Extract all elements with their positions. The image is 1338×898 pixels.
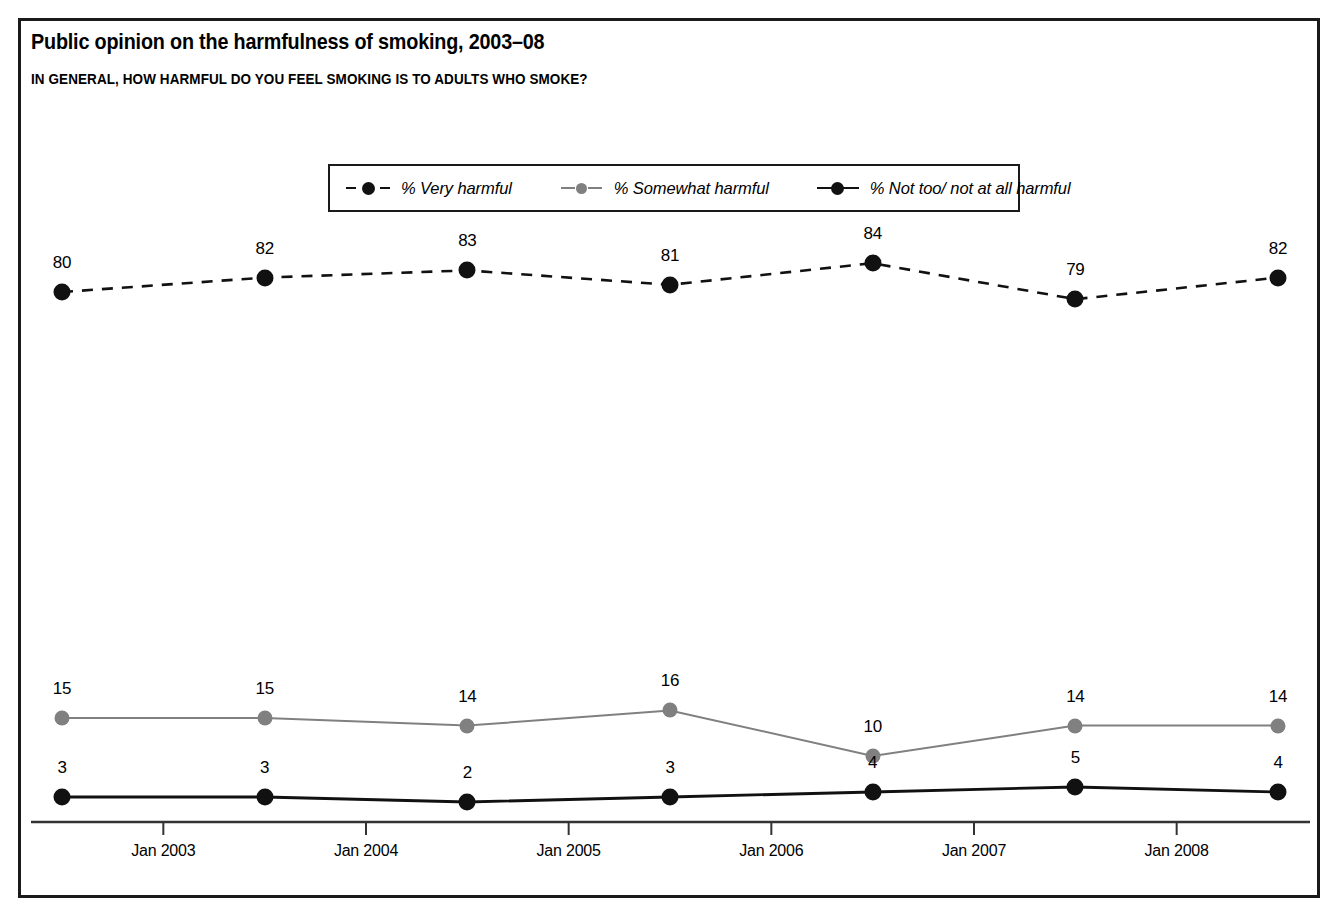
data-label-somewhat-harmful: 14 — [1269, 687, 1287, 707]
data-label-very-harmful: 82 — [256, 239, 274, 259]
data-point-somewhat-harmful[interactable] — [663, 703, 678, 718]
data-label-very-harmful: 79 — [1066, 260, 1084, 280]
x-tick-label: Jan 2003 — [131, 842, 195, 860]
x-tick-label: Jan 2005 — [537, 842, 601, 860]
data-point-somewhat-harmful[interactable] — [460, 718, 475, 733]
x-tick-label: Jan 2007 — [942, 842, 1006, 860]
data-point-somewhat-harmful[interactable] — [257, 711, 272, 726]
data-label-very-harmful: 84 — [864, 224, 882, 244]
legend-marker-gray-icon — [559, 181, 605, 195]
data-label-very-harmful: 81 — [661, 246, 679, 266]
data-label-very-harmful: 83 — [458, 231, 476, 251]
data-label-not-harmful: 5 — [1071, 748, 1080, 768]
data-point-very-harmful[interactable] — [662, 276, 679, 293]
data-label-not-harmful: 4 — [1273, 753, 1282, 773]
x-tick-label: Jan 2004 — [334, 842, 398, 860]
legend-marker-solid-icon — [815, 181, 861, 195]
data-label-somewhat-harmful: 15 — [256, 679, 274, 699]
data-label-somewhat-harmful: 16 — [661, 671, 679, 691]
data-point-very-harmful[interactable] — [256, 269, 273, 286]
data-point-not-harmful[interactable] — [54, 789, 71, 806]
x-tick-label: Jan 2006 — [739, 842, 803, 860]
data-point-not-harmful[interactable] — [256, 789, 273, 806]
data-point-not-harmful[interactable] — [662, 789, 679, 806]
legend-label-not-harmful: % Not too/ not at all harmful — [870, 179, 1071, 198]
legend-item-somewhat-harmful[interactable]: % Somewhat harmful — [559, 179, 769, 198]
data-label-very-harmful: 82 — [1269, 239, 1287, 259]
data-label-not-harmful: 4 — [868, 753, 877, 773]
legend-item-very-harmful[interactable]: % Very harmful — [346, 179, 512, 198]
data-point-very-harmful[interactable] — [1270, 269, 1287, 286]
data-label-somewhat-harmful: 15 — [53, 679, 71, 699]
data-point-not-harmful[interactable] — [1067, 779, 1084, 796]
data-label-not-harmful: 3 — [260, 758, 269, 778]
chart-legend: % Very harmful % Somewhat harmful % Not … — [328, 164, 1020, 212]
data-point-very-harmful[interactable] — [459, 262, 476, 279]
data-point-not-harmful[interactable] — [1270, 784, 1287, 801]
data-point-not-harmful[interactable] — [864, 784, 881, 801]
legend-marker-dashed-icon — [346, 181, 392, 195]
data-label-somewhat-harmful: 14 — [1066, 687, 1084, 707]
page-title: Public opinion on the harmfulness of smo… — [31, 30, 544, 55]
data-label-not-harmful: 2 — [463, 763, 472, 783]
data-point-very-harmful[interactable] — [864, 255, 881, 272]
data-point-very-harmful[interactable] — [54, 284, 71, 301]
legend-label-very-harmful: % Very harmful — [401, 179, 512, 198]
legend-item-not-harmful[interactable]: % Not too/ not at all harmful — [815, 179, 1071, 198]
chart-subtitle: IN GENERAL, HOW HARMFUL DO YOU FEEL SMOK… — [31, 71, 588, 87]
data-label-somewhat-harmful: 10 — [864, 717, 882, 737]
data-label-very-harmful: 80 — [53, 253, 71, 273]
data-point-somewhat-harmful[interactable] — [1068, 718, 1083, 733]
data-point-very-harmful[interactable] — [1067, 291, 1084, 308]
x-tick-label: Jan 2008 — [1145, 842, 1209, 860]
data-point-not-harmful[interactable] — [459, 794, 476, 811]
data-label-somewhat-harmful: 14 — [458, 687, 476, 707]
data-point-somewhat-harmful[interactable] — [55, 711, 70, 726]
legend-label-somewhat-harmful: % Somewhat harmful — [614, 179, 769, 198]
data-label-not-harmful: 3 — [57, 758, 66, 778]
data-label-not-harmful: 3 — [665, 758, 674, 778]
data-point-somewhat-harmful[interactable] — [1271, 718, 1286, 733]
